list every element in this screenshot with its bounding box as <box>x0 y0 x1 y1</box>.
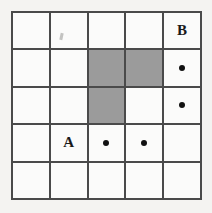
cell-dot-marker <box>179 102 185 108</box>
grid-cell-r5-c1[interactable] <box>13 163 51 200</box>
grid-cell-r1-c1[interactable] <box>13 13 51 50</box>
cell-dot-marker <box>141 140 147 146</box>
grid-cell-r2-c5[interactable] <box>164 50 202 87</box>
grid-cell-r1-c4[interactable] <box>126 13 164 50</box>
grid-cell-r2-c1[interactable] <box>13 50 51 87</box>
cell-label-a: A <box>63 135 74 150</box>
grid-cell-r2-c2[interactable] <box>51 50 89 87</box>
grid-puzzle-figure: BA <box>0 0 212 213</box>
puzzle-grid: BA <box>11 11 202 200</box>
grid-cell-r5-c4[interactable] <box>126 163 164 200</box>
grid-cell-r3-c4[interactable] <box>126 88 164 125</box>
grid-cell-r3-c1[interactable] <box>13 88 51 125</box>
grid-cell-r4-c2[interactable]: A <box>51 125 89 162</box>
grid-cell-r4-c4[interactable] <box>126 125 164 162</box>
grid-cell-r4-c3[interactable] <box>89 125 127 162</box>
grid-cell-r2-c3[interactable] <box>89 50 127 87</box>
cell-dot-marker <box>179 65 185 71</box>
grid-cell-r1-c5[interactable]: B <box>164 13 202 50</box>
cell-dot-marker <box>103 140 109 146</box>
grid-cell-r2-c4[interactable] <box>126 50 164 87</box>
grid-cell-r1-c2[interactable] <box>51 13 89 50</box>
grid-cell-r3-c5[interactable] <box>164 88 202 125</box>
grid-cell-r1-c3[interactable] <box>89 13 127 50</box>
grid-cell-r4-c5[interactable] <box>164 125 202 162</box>
grid-cell-r5-c5[interactable] <box>164 163 202 200</box>
grid-cell-r3-c3[interactable] <box>89 88 127 125</box>
grid-cell-r4-c1[interactable] <box>13 125 51 162</box>
grid-cell-r3-c2[interactable] <box>51 88 89 125</box>
grid-cell-r5-c2[interactable] <box>51 163 89 200</box>
cell-label-b: B <box>177 23 187 38</box>
grid-cell-r5-c3[interactable] <box>89 163 127 200</box>
